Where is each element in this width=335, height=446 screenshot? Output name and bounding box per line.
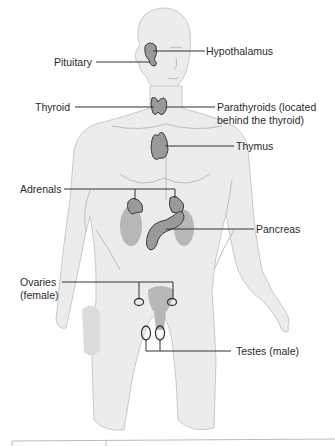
label-adrenals: Adrenals [20, 183, 61, 195]
label-parathyroids-line1: Parathyroids (located [217, 101, 316, 113]
label-ovaries-line1: Ovaries [20, 276, 56, 288]
label-testes: Testes (male) [236, 345, 299, 357]
head [135, 8, 190, 92]
label-pituitary: Pituitary [54, 56, 92, 68]
torso [56, 86, 289, 430]
table-border [12, 439, 335, 446]
label-parathyroids-line2: behind the thyroid) [217, 114, 304, 126]
endocrine-system-diagram: Hypothalamus Pituitary Thyroid Parathyro… [0, 0, 335, 446]
label-ovaries-line2: (female) [20, 289, 59, 301]
label-thymus: Thymus [236, 140, 273, 152]
label-pancreas: Pancreas [256, 223, 300, 235]
label-thyroid: Thyroid [35, 101, 70, 113]
thyroid-gland [151, 98, 167, 115]
label-hypothalamus: Hypothalamus [206, 45, 273, 57]
